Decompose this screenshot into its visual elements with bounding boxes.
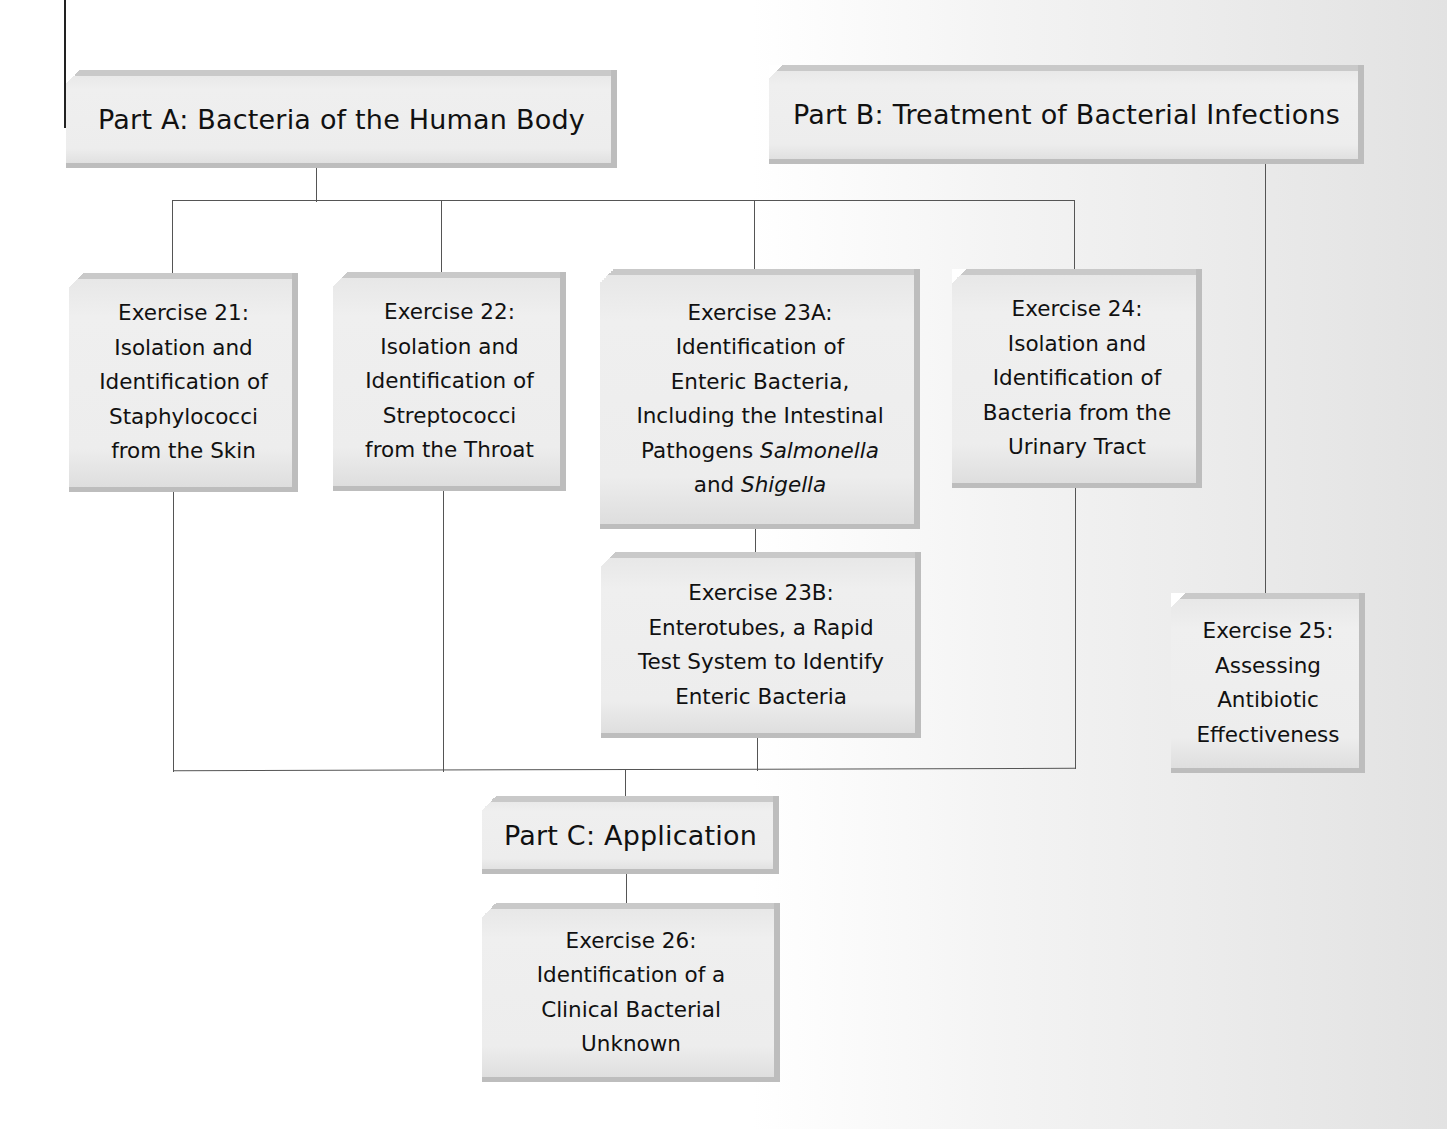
exercise-23a-line5-text: Pathogens [641, 438, 760, 463]
exercise-21-box: Exercise 21: Isolation and Identificatio… [69, 273, 298, 492]
exercise-22-line: from the Throat [365, 433, 534, 468]
connector-ex24-down [1075, 488, 1076, 769]
part-c-title: Part C: Application [504, 820, 757, 851]
connector-to-partc [625, 770, 626, 798]
exercise-23a-heading: Exercise 23A: [687, 296, 832, 331]
connector-to-ex22 [441, 200, 442, 274]
exercise-21-line: Identification of [99, 365, 268, 400]
exercise-23b-line: Test System to Identify [638, 645, 884, 680]
exercise-25-line: Effectiveness [1196, 718, 1339, 753]
exercise-23b-heading: Exercise 23B: [688, 576, 834, 611]
exercise-26-line: Clinical Bacterial [541, 993, 721, 1028]
exercise-21-heading: Exercise 21: [118, 296, 249, 331]
connector-ex23a-ex23b [755, 528, 756, 554]
exercise-25-line: Assessing [1215, 649, 1321, 684]
exercise-23a-line: Identification of [676, 330, 845, 365]
part-b-box: Part B: Treatment of Bacterial Infection… [769, 65, 1364, 164]
exercise-25-heading: Exercise 25: [1203, 614, 1334, 649]
exercise-21-line: from the Skin [111, 434, 256, 469]
connector-to-ex24 [1074, 200, 1075, 270]
exercise-22-line: Streptococci [383, 399, 517, 434]
connector-to-ex21 [172, 200, 173, 274]
part-a-title: Part A: Bacteria of the Human Body [98, 104, 585, 135]
exercise-24-box: Exercise 24: Isolation and Identificatio… [952, 269, 1202, 488]
connector-top-horizontal [172, 200, 1075, 201]
exercise-24-line: Urinary Tract [1008, 430, 1146, 465]
shigella-genus: Shigella [741, 472, 826, 497]
exercise-25-box: Exercise 25: Assessing Antibiotic Effect… [1171, 593, 1365, 773]
exercise-21-line: Isolation and [114, 331, 252, 366]
exercise-26-heading: Exercise 26: [566, 924, 697, 959]
connector-ex22-down [443, 491, 444, 772]
exercise-23b-line: Enterotubes, a Rapid [648, 611, 873, 646]
connector-ex23b-down [757, 737, 758, 771]
exercise-23a-line: Including the Intestinal [636, 399, 883, 434]
exercise-25-line: Antibiotic [1217, 683, 1319, 718]
connector-parta-down [316, 166, 317, 202]
exercise-24-line: Identification of [993, 361, 1162, 396]
exercise-23a-line6-text: and [694, 472, 741, 497]
part-c-box: Part C: Application [482, 796, 779, 874]
exercise-21-line: Staphylococci [109, 400, 258, 435]
connector-to-ex23a [754, 200, 755, 270]
exercise-23a-line: and Shigella [694, 468, 827, 503]
exercise-26-box: Exercise 26: Identification of a Clinica… [482, 903, 780, 1082]
exercise-23a-line: Enteric Bacteria, [671, 365, 850, 400]
connector-partb-ex25 [1265, 163, 1266, 595]
exercise-24-line: Isolation and [1008, 327, 1146, 362]
exercise-24-line: Bacteria from the [983, 396, 1171, 431]
exercise-23a-line: Pathogens Salmonella [641, 434, 879, 469]
exercise-26-line: Identification of a [537, 958, 726, 993]
connector-partc-ex26 [626, 873, 627, 905]
exercise-22-line: Isolation and [380, 330, 518, 365]
exercise-24-heading: Exercise 24: [1012, 292, 1143, 327]
exercise-22-box: Exercise 22: Isolation and Identificatio… [333, 272, 566, 491]
part-b-title: Part B: Treatment of Bacterial Infection… [793, 99, 1340, 130]
exercise-23b-box: Exercise 23B: Enterotubes, a Rapid Test … [601, 552, 921, 738]
exercise-23a-box: Exercise 23A: Identification of Enteric … [600, 269, 920, 529]
exercise-26-line: Unknown [581, 1027, 681, 1062]
part-a-box: Part A: Bacteria of the Human Body [66, 70, 617, 168]
exercise-22-line: Identification of [365, 364, 534, 399]
salmonella-genus: Salmonella [760, 438, 879, 463]
exercise-23b-line: Enteric Bacteria [675, 680, 847, 715]
connector-ex21-down [173, 491, 174, 772]
exercise-22-heading: Exercise 22: [384, 295, 515, 330]
